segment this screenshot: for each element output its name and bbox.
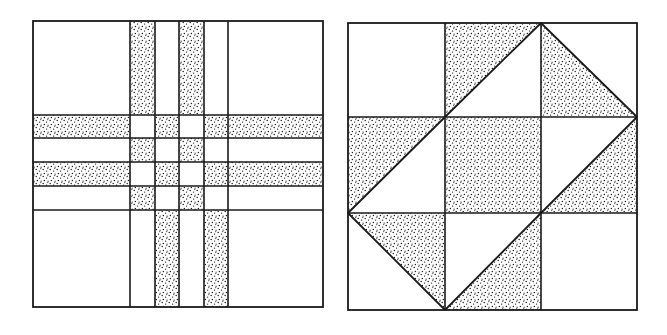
shaded-patch [130, 186, 155, 210]
shaded-patch [33, 115, 130, 138]
plaid-quilt-block [33, 21, 323, 307]
shaded-patch [204, 210, 228, 307]
shaded-patch [204, 115, 228, 138]
shaded-patch [155, 115, 179, 138]
quilt-diagram [0, 0, 667, 335]
shaded-patch [228, 115, 323, 138]
shaded-patch [204, 162, 228, 186]
shaded-patch [130, 138, 155, 162]
shaded-patch [179, 21, 204, 115]
triangle-quilt-block [348, 23, 637, 310]
shaded-patch [155, 162, 179, 186]
shaded-patch [33, 162, 130, 186]
shaded-square [445, 117, 541, 213]
shaded-patch [179, 186, 204, 210]
shaded-patch [155, 210, 179, 307]
shaded-patch [228, 162, 323, 186]
shaded-patch [130, 21, 155, 115]
shaded-patch [179, 138, 204, 162]
